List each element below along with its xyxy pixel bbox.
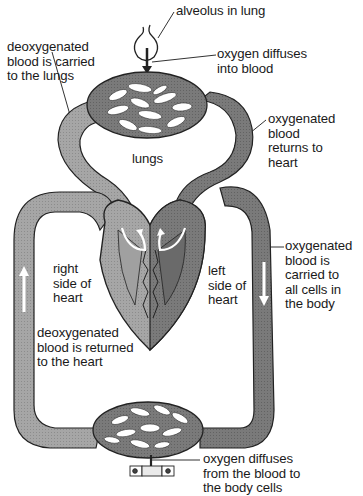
label-oxygen-into-blood: oxygen diffuses into blood (217, 47, 307, 76)
label-oxygenated-to-cells: oxygenated blood is carried to all cells… (285, 239, 352, 312)
label-oxygen-to-cells: oxygen diffuses from the blood to the bo… (203, 452, 300, 496)
label-deoxygenated-returned: deoxygenated blood is returned to the he… (37, 326, 134, 370)
body-cells-icon (130, 455, 174, 476)
label-oxygenated-returns: oxygenated blood returns to heart (268, 112, 335, 170)
label-deoxygenated-to-lungs: deoxygenated blood is carried to the lun… (7, 40, 95, 84)
label-right-side-of-heart: right side of heart (53, 262, 91, 306)
alveolus-icon (134, 25, 157, 74)
label-alveolus: alveolus in lung (176, 4, 265, 19)
label-left-side-of-heart: left side of heart (208, 264, 246, 308)
label-lungs: lungs (132, 152, 163, 167)
body-capillary-network-icon (93, 402, 203, 458)
lung-capillary-network-icon (87, 72, 207, 138)
